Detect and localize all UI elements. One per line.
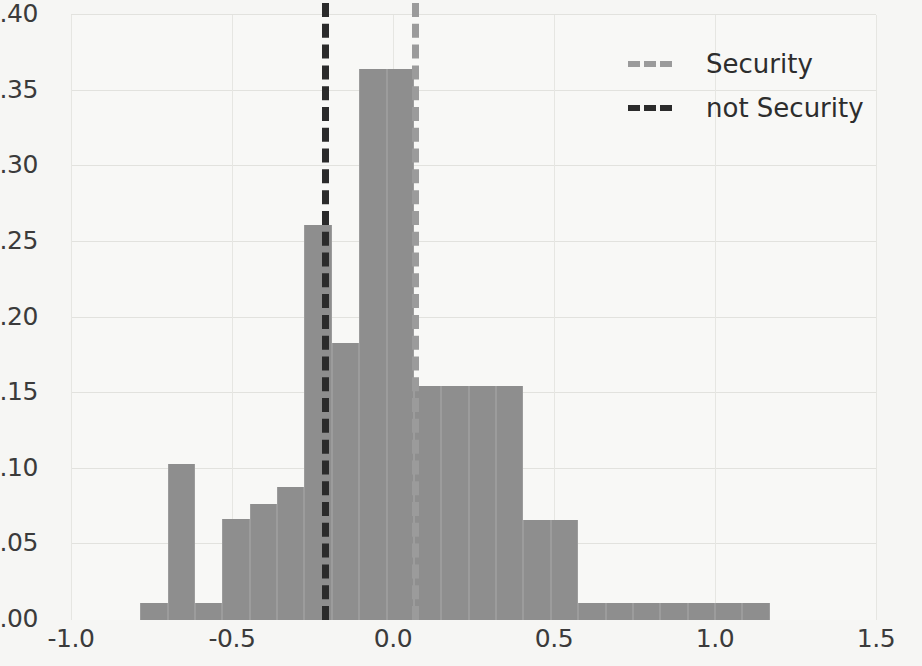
x-tick-label: -0.5 [172,624,292,653]
legend-dash-icon [628,61,672,67]
histogram-bar [195,603,222,620]
gridline-y-0.40 [71,14,876,15]
x-tick-label: 1.5 [816,624,922,653]
x-tick-label: 0.5 [494,624,614,653]
histogram-bar [222,519,249,620]
histogram-bar [742,603,769,620]
histogram-bar [551,520,578,620]
histogram-bar [277,487,304,620]
histogram-bar [523,520,550,620]
gridline-y-0.20 [71,317,876,318]
y-tick-label: 0.05 [0,528,38,557]
histogram-bar [688,603,715,620]
y-tick-label: 0.30 [0,150,38,179]
y-tick-label: 0.15 [0,377,38,406]
legend: Securitynot Security [628,42,898,130]
y-tick-label: 0.10 [0,453,38,482]
gridline-y-0.25 [71,241,876,242]
histogram-bar [469,386,496,620]
x-tick-label: 0.0 [333,624,453,653]
histogram-bar [140,603,167,620]
vline-security [412,3,419,620]
y-tick-label: 0.40 [0,0,38,28]
vline-not-security [322,3,329,620]
legend-dash-icon [628,105,672,111]
legend-label: not Security [706,93,864,123]
histogram-bar [660,603,687,620]
histogram-bar [359,69,386,620]
histogram-bar [606,603,633,620]
histogram-bar [332,343,359,620]
legend-label: Security [706,49,813,79]
y-tick-label: 0.25 [0,226,38,255]
y-tick-label: 0.35 [0,75,38,104]
histogram-figure: 0.000.050.100.150.200.250.300.350.40 -1.… [0,0,922,666]
histogram-bar [496,386,523,620]
gridline-y-0.30 [71,165,876,166]
histogram-bar [578,603,605,620]
histogram-bar [633,603,660,620]
y-tick-label: 0.20 [0,302,38,331]
x-tick-label: -1.0 [11,624,131,653]
histogram-bar [250,504,277,620]
histogram-bar [715,603,742,620]
x-tick-label: 1.0 [655,624,775,653]
histogram-bar [168,464,195,620]
legend-item: not Security [628,86,898,130]
legend-item: Security [628,42,898,86]
gridline-x--1.0 [71,15,72,620]
histogram-bar [441,386,468,620]
histogram-bar [387,69,414,620]
